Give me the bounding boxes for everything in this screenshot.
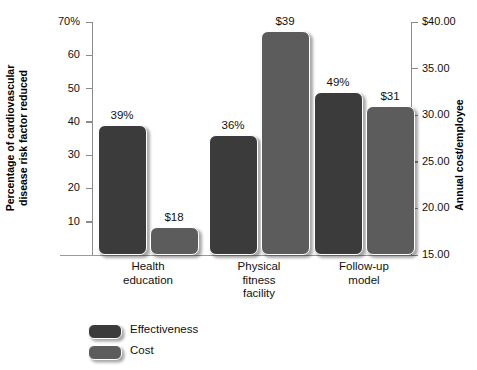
y-axis-right-tick-label: 25.00	[422, 155, 477, 167]
bar-value-label-effectiveness: 39%	[88, 109, 157, 121]
y-axis-right-tick-label: 20.00	[422, 201, 477, 213]
y-axis-left-tick	[86, 155, 93, 156]
y-axis-left-tick-label: 50	[24, 82, 80, 94]
x-axis-baseline	[60, 255, 413, 256]
y-axis-right-tick	[411, 255, 418, 256]
bar-value-label-effectiveness: 49%	[304, 76, 373, 88]
y-axis-right-tick-label: 35.00	[422, 62, 477, 74]
y-axis-left-tick	[86, 221, 93, 222]
y-axis-left-tick	[86, 55, 93, 56]
y-axis-left-tick-label: 70%	[24, 15, 80, 27]
bar-cost	[150, 227, 199, 255]
y-axis-right-tick-label: 15.00	[422, 248, 477, 260]
bar-cost	[261, 31, 310, 255]
y-axis-left-tick-label: 20	[24, 181, 80, 193]
y-axis-left-tick	[86, 188, 93, 189]
y-axis-left-tick-label: 30	[24, 148, 80, 160]
x-axis-category-label: Physical fitness facility	[199, 260, 319, 301]
x-axis-category-label: Follow-up model	[304, 260, 424, 287]
bar-value-label-effectiveness: 36%	[199, 119, 268, 131]
bar-value-label-cost: $31	[356, 90, 425, 102]
bar-effectiveness	[314, 92, 363, 255]
y-axis-right-tick-label: $40.00	[422, 15, 477, 27]
y-axis-left-tick-label: 40	[24, 115, 80, 127]
bar-value-label-cost: $18	[140, 211, 209, 223]
x-axis-category-label: Health education	[88, 260, 208, 287]
y-axis-right-tick-label: 30.00	[422, 108, 477, 120]
plot-area: 70%605040302010$40.0035.0030.0025.0020.0…	[92, 22, 412, 255]
y-axis-left-tick	[86, 22, 93, 23]
y-axis-left-tick	[86, 88, 93, 89]
y-axis-left-tick-label: 10	[24, 215, 80, 227]
chart-container: Percentage of cardiovascular disease ris…	[0, 0, 477, 370]
legend-label: Cost	[130, 344, 154, 356]
legend-swatch	[88, 324, 122, 339]
bar-effectiveness	[209, 135, 258, 255]
bar-cost	[366, 106, 415, 255]
legend-swatch	[88, 345, 122, 360]
y-axis-left-tick	[86, 121, 93, 122]
bar-effectiveness	[98, 125, 147, 255]
bar-value-label-cost: $39	[251, 15, 320, 27]
y-axis-right-tick	[411, 68, 418, 69]
legend-label: Effectiveness	[130, 323, 198, 335]
y-axis-left-tick-label: 60	[24, 48, 80, 60]
y-axis-right-tick	[411, 22, 418, 23]
